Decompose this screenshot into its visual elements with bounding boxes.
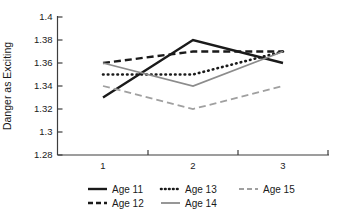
series-line-age-15	[103, 86, 283, 109]
x-tick-label: 3	[280, 160, 285, 171]
legend-item: Age 13	[161, 184, 217, 195]
legend-label: Age 15	[263, 184, 295, 195]
legend-item: Age 12	[88, 198, 144, 209]
series-line-age-11	[103, 40, 283, 98]
y-tick-label: 1.28	[34, 149, 53, 160]
y-tick-label: 1.38	[34, 34, 53, 45]
x-tick-label: 2	[190, 160, 195, 171]
line-chart-figure: 1.41.381.361.341.321.31.28123Danger as E…	[0, 0, 343, 220]
y-tick-label: 1.3	[39, 126, 52, 137]
y-tick-label: 1.36	[34, 57, 53, 68]
y-tick-label: 1.34	[34, 80, 53, 91]
legend-label: Age 14	[185, 198, 217, 209]
y-axis-title: Danger as Exciting	[1, 42, 13, 130]
legend-item: Age 15	[239, 184, 295, 195]
legend-label: Age 13	[185, 184, 217, 195]
x-tick-label: 1	[100, 160, 105, 171]
y-tick-label: 1.4	[39, 11, 52, 22]
legend-label: Age 12	[112, 198, 144, 209]
legend-item: Age 14	[161, 198, 217, 209]
legend-label: Age 11	[112, 184, 143, 195]
legend-item: Age 11	[88, 184, 143, 195]
chart-svg: 1.41.381.361.341.321.31.28123Danger as E…	[0, 0, 343, 220]
y-tick-label: 1.32	[34, 103, 53, 114]
